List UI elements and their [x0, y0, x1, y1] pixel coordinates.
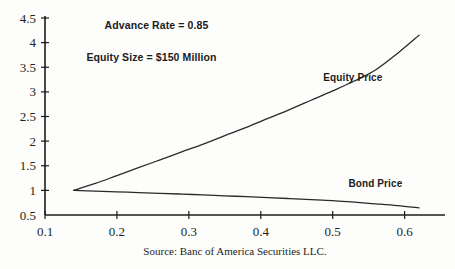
- x-tick-label: 0.1: [37, 224, 53, 239]
- y-tick-label: 4: [30, 35, 37, 50]
- y-tick-label: 1: [30, 183, 37, 198]
- line-chart: 0.511.522.533.544.50.10.20.30.40.50.6Equ…: [0, 0, 455, 269]
- x-tick-label: 0.2: [109, 224, 125, 239]
- y-tick-label: 2.5: [20, 109, 36, 124]
- y-tick-label: 3: [30, 84, 37, 99]
- bond-price-label: Bond Price: [349, 178, 403, 189]
- chart-figure: 0.511.522.533.544.50.10.20.30.40.50.6Equ…: [0, 0, 455, 269]
- x-tick-label: 0.4: [253, 224, 270, 239]
- x-tick-label: 0.3: [181, 224, 197, 239]
- series-curve-bond-price: [74, 190, 419, 207]
- y-tick-label: 1.5: [20, 158, 36, 173]
- y-tick-label: 3.5: [20, 60, 36, 75]
- y-tick-label: 0.5: [20, 208, 36, 223]
- annotation-equity-size: Equity Size = $150 Million: [86, 51, 216, 63]
- y-tick-label: 2: [30, 134, 37, 149]
- x-tick-label: 0.6: [397, 224, 414, 239]
- source-note: Source: Banc of America Securities LLC.: [143, 245, 327, 257]
- x-tick-label: 0.5: [325, 224, 341, 239]
- y-tick-label: 4.5: [20, 11, 36, 26]
- annotation-advance-rate: Advance Rate = 0.85: [105, 19, 209, 31]
- equity-price-label: Equity Price: [323, 72, 382, 83]
